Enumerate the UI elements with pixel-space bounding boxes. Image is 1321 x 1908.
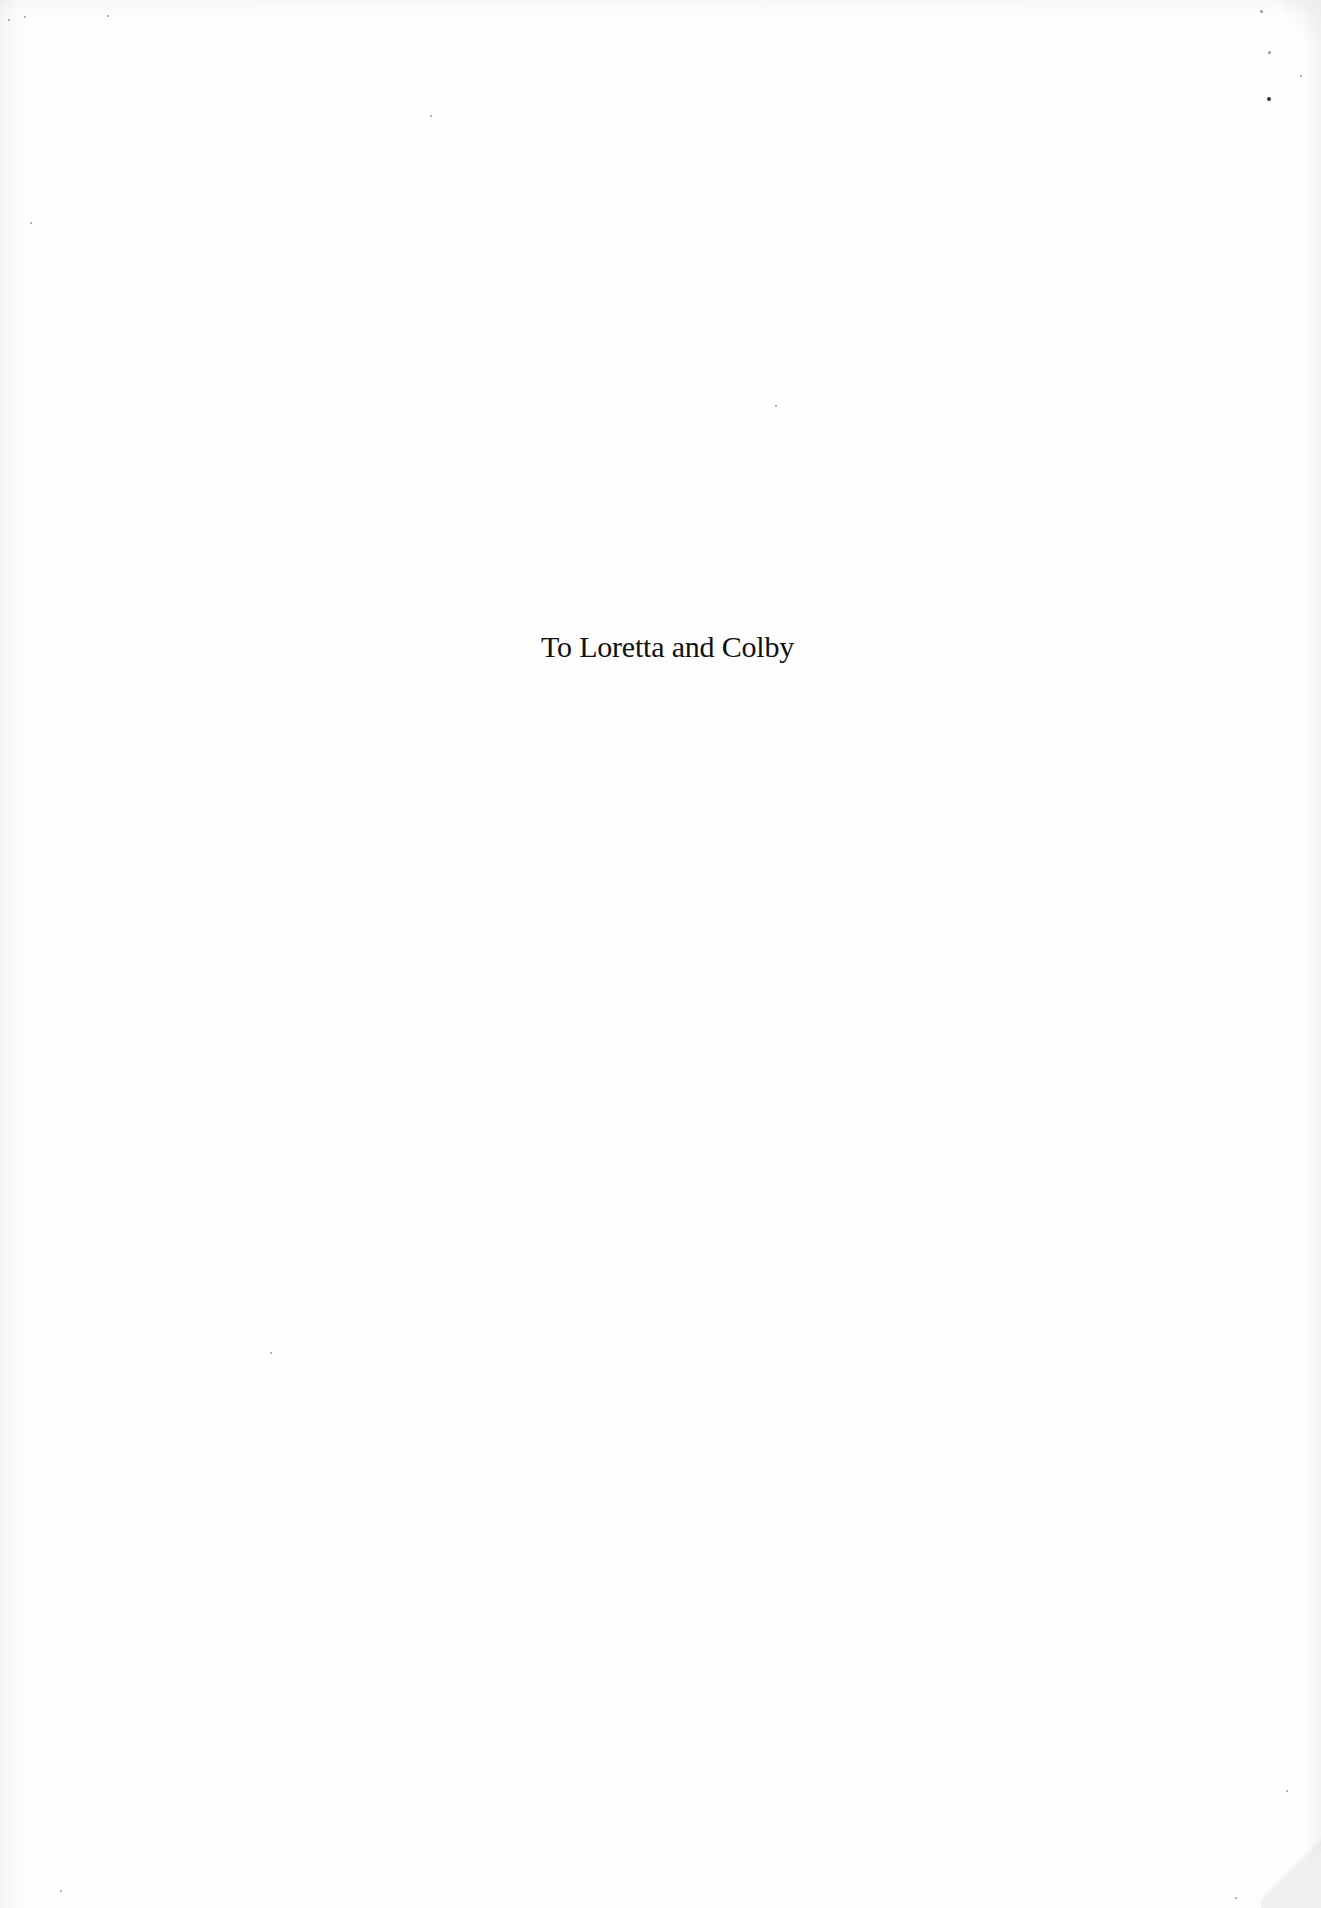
scan-speck [1286,1790,1288,1792]
scan-speck [60,1890,62,1892]
scan-speck [30,222,32,224]
page-corner-curl [1261,1838,1321,1908]
scan-speck [1268,51,1271,54]
scan-speck [1235,1897,1237,1899]
scan-speck [8,19,10,21]
scan-speck [107,15,109,17]
dedication-text: To Loretta and Colby [541,629,794,665]
scan-speck [430,115,432,117]
book-page: To Loretta and Colby [0,0,1321,1908]
page-corner-shadow [1281,0,1321,40]
scan-speck [775,405,777,407]
scan-speck [270,1352,272,1354]
scan-speck [1300,75,1302,77]
scan-speck [24,16,26,18]
scan-speck [1260,10,1263,13]
scan-speck [1267,97,1271,101]
